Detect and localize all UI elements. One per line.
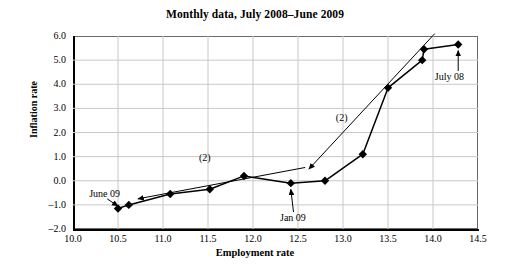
data-point-marker	[321, 177, 329, 185]
data-point-marker	[166, 190, 174, 198]
arrow-2-lower: (2)	[199, 152, 211, 163]
data-point-marker	[454, 40, 462, 48]
data-point-marker	[114, 204, 122, 212]
june-09-label: June 09	[89, 188, 120, 199]
arrow-2-upper: (2)	[336, 112, 348, 123]
chart-plot-svg	[0, 0, 510, 268]
data-point-marker	[420, 45, 428, 53]
callout-jan-09	[291, 189, 294, 212]
jan-09-label: Jan 09	[280, 212, 306, 223]
data-series-layer	[114, 40, 463, 212]
trend-arrow-upper	[309, 34, 435, 170]
july-08-label: July 08	[435, 71, 464, 82]
data-point-marker	[125, 201, 133, 209]
data-point-marker	[287, 179, 295, 187]
chart-container: Monthly data, July 2008–June 2009 6.05.0…	[0, 0, 510, 268]
